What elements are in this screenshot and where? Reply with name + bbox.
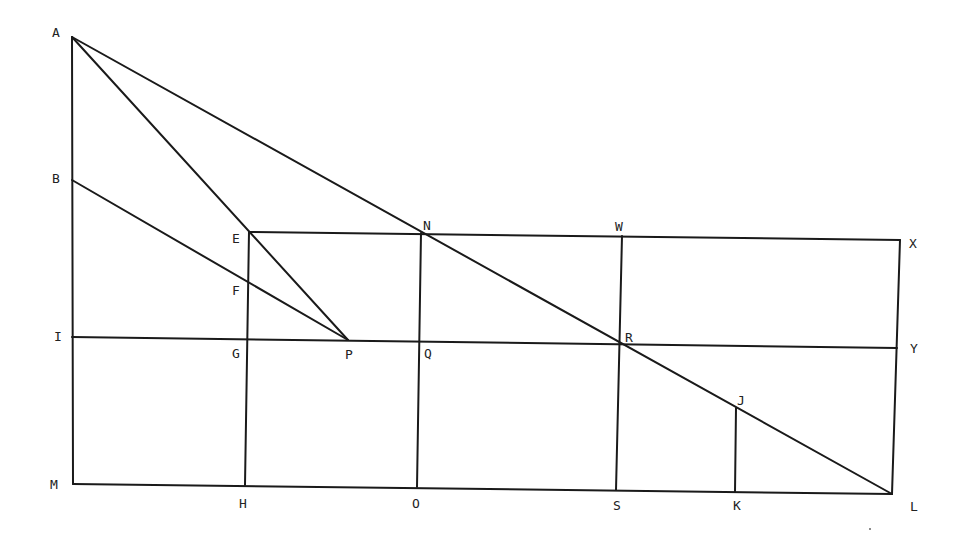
segment-am: [72, 37, 73, 484]
label-point-f: F: [232, 284, 240, 297]
label-point-x: X: [909, 237, 917, 250]
segment-xl: [892, 240, 900, 494]
label-point-i: I: [54, 330, 62, 343]
segment-no: [417, 233, 421, 487]
segment-ws: [616, 236, 622, 490]
label-point-q: Q: [424, 347, 432, 360]
label-point-e: E: [232, 232, 240, 245]
label-point-k: K: [733, 499, 741, 512]
label-point-l: L: [910, 500, 918, 513]
label-point-n: N: [423, 219, 431, 232]
stray-mark: [869, 528, 871, 530]
label-point-j: J: [737, 394, 745, 407]
label-point-r: R: [625, 331, 633, 344]
label-point-m: M: [50, 478, 58, 491]
segment-bp: [72, 180, 348, 340]
segment-al: [72, 37, 892, 494]
label-point-p: P: [345, 348, 353, 361]
label-point-g: G: [232, 347, 240, 360]
geometry-diagram: [0, 0, 965, 538]
segment-jk: [735, 408, 736, 492]
label-point-y: Y: [910, 342, 918, 355]
label-point-o: O: [412, 497, 420, 510]
segment-ap: [72, 37, 348, 340]
segment-eh: [245, 232, 249, 485]
label-point-a: A: [52, 26, 60, 39]
segment-ml: [73, 484, 892, 494]
segment-iy: [72, 337, 897, 348]
label-point-s: S: [613, 499, 621, 512]
label-point-h: H: [239, 497, 247, 510]
label-point-w: W: [615, 220, 623, 233]
segment-ex: [249, 232, 900, 240]
label-point-b: B: [52, 172, 60, 185]
